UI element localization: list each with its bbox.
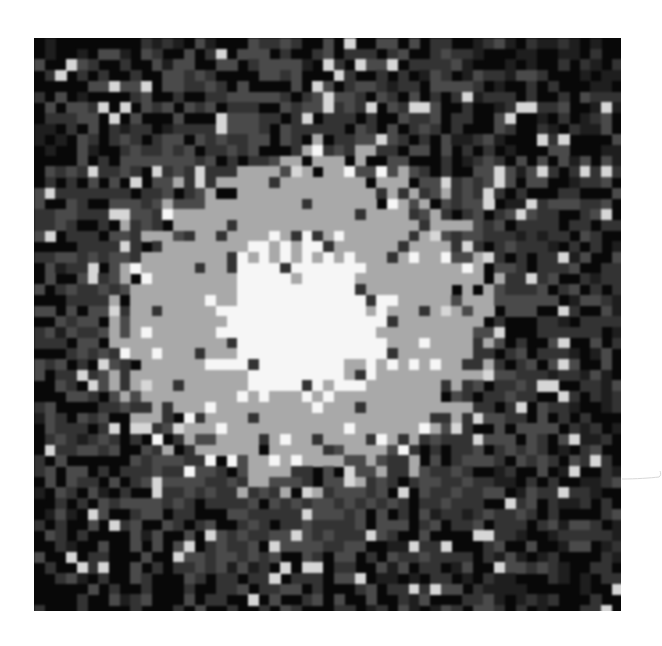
image-pixel <box>334 199 345 210</box>
image-pixel <box>516 594 527 605</box>
image-pixel <box>441 38 452 49</box>
image-pixel <box>558 102 569 113</box>
image-pixel <box>430 584 441 595</box>
image-pixel <box>98 348 109 359</box>
image-pixel <box>269 530 280 541</box>
image-pixel <box>280 359 291 370</box>
image-pixel <box>312 199 323 210</box>
image-pixel <box>419 124 430 135</box>
image-pixel <box>483 188 494 199</box>
image-pixel <box>195 402 206 413</box>
image-pixel <box>366 445 377 456</box>
image-pixel <box>344 455 355 466</box>
image-pixel <box>259 231 270 242</box>
image-pixel <box>323 391 334 402</box>
image-pixel <box>227 156 238 167</box>
image-pixel <box>569 220 580 231</box>
image-pixel <box>280 402 291 413</box>
image-pixel <box>109 209 120 220</box>
image-pixel <box>441 284 452 295</box>
image-pixel <box>312 295 323 306</box>
image-pixel <box>376 327 387 338</box>
image-pixel <box>398 284 409 295</box>
image-pixel <box>77 209 88 220</box>
image-pixel <box>494 530 505 541</box>
image-pixel <box>483 594 494 605</box>
image-pixel <box>312 423 323 434</box>
image-pixel <box>526 477 537 488</box>
image-pixel <box>419 552 430 563</box>
image-pixel <box>173 145 184 156</box>
image-pixel <box>205 124 216 135</box>
image-pixel <box>483 573 494 584</box>
image-pixel <box>216 370 227 381</box>
image-pixel <box>516 263 527 274</box>
image-pixel <box>259 295 270 306</box>
image-pixel <box>280 455 291 466</box>
image-pixel <box>141 413 152 424</box>
image-pixel <box>409 81 420 92</box>
image-pixel <box>462 466 473 477</box>
image-pixel <box>569 124 580 135</box>
image-pixel <box>548 359 559 370</box>
image-pixel <box>387 145 398 156</box>
image-pixel <box>173 284 184 295</box>
image-pixel <box>280 231 291 242</box>
image-pixel <box>516 220 527 231</box>
image-pixel <box>494 413 505 424</box>
image-pixel <box>130 466 141 477</box>
image-pixel <box>494 562 505 573</box>
image-pixel <box>409 231 420 242</box>
image-pixel <box>537 520 548 531</box>
image-pixel <box>88 520 99 531</box>
image-pixel <box>227 59 238 70</box>
image-pixel <box>248 466 259 477</box>
image-pixel <box>302 380 313 391</box>
image-pixel <box>473 584 484 595</box>
image-pixel <box>409 220 420 231</box>
image-pixel <box>601 263 612 274</box>
image-pixel <box>291 455 302 466</box>
image-pixel <box>462 487 473 498</box>
image-pixel <box>120 102 131 113</box>
image-pixel <box>55 166 66 177</box>
image-pixel <box>152 487 163 498</box>
image-pixel <box>494 134 505 145</box>
image-pixel <box>141 284 152 295</box>
image-pixel <box>141 263 152 274</box>
image-pixel <box>612 541 621 552</box>
image-pixel <box>312 156 323 167</box>
image-pixel <box>77 327 88 338</box>
image-pixel <box>88 81 99 92</box>
image-pixel <box>269 92 280 103</box>
image-pixel <box>45 124 56 135</box>
image-pixel <box>312 370 323 381</box>
image-pixel <box>216 338 227 349</box>
image-pixel <box>259 370 270 381</box>
image-pixel <box>462 199 473 210</box>
image-pixel <box>409 252 420 263</box>
image-pixel <box>483 70 494 81</box>
image-pixel <box>505 466 516 477</box>
image-pixel <box>291 402 302 413</box>
image-pixel <box>558 573 569 584</box>
image-pixel <box>569 348 580 359</box>
image-pixel <box>55 252 66 263</box>
image-pixel <box>601 562 612 573</box>
image-pixel <box>344 177 355 188</box>
image-pixel <box>162 177 173 188</box>
image-pixel <box>483 434 494 445</box>
image-pixel <box>483 284 494 295</box>
image-pixel <box>558 188 569 199</box>
image-pixel <box>109 520 120 531</box>
image-pixel <box>227 541 238 552</box>
image-pixel <box>323 38 334 49</box>
image-pixel <box>590 59 601 70</box>
image-pixel <box>430 252 441 263</box>
image-pixel <box>216 92 227 103</box>
image-pixel <box>334 156 345 167</box>
image-pixel <box>205 284 216 295</box>
image-pixel <box>409 284 420 295</box>
image-pixel <box>45 231 56 242</box>
image-pixel <box>323 413 334 424</box>
